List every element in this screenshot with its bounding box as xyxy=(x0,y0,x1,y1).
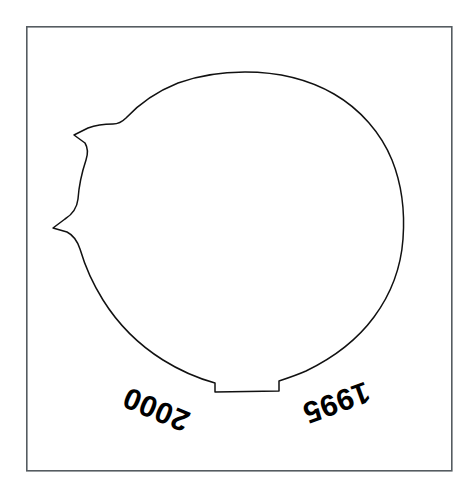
data-contour-main xyxy=(53,72,404,392)
angular-tick-1995: 1995 xyxy=(299,376,375,431)
polar-plot: 2000 1995 xyxy=(0,0,476,499)
angular-tick-label-1995: 1995 xyxy=(299,376,375,431)
figure-canvas: 2000 1995 xyxy=(0,0,476,499)
plot-frame xyxy=(27,27,452,471)
angular-tick-2000: 2000 xyxy=(118,381,194,438)
angular-tick-label-2000: 2000 xyxy=(118,381,194,438)
